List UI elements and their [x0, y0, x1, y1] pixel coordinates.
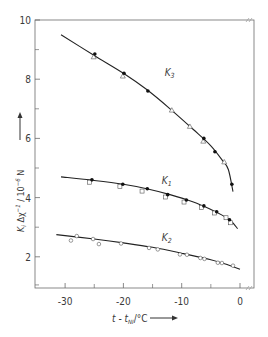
open-circle-marker [156, 248, 160, 252]
filled-circle-marker [121, 182, 125, 186]
series-k1 [61, 177, 238, 229]
open-circle-marker [220, 261, 224, 265]
fit-curve-k2 [56, 235, 240, 270]
y-axis-arrow-head [18, 112, 23, 118]
filled-circle-marker [202, 137, 206, 141]
filled-circle-marker [202, 204, 206, 208]
y-axis-label: Ki Δχ−1 / 10−6 N [14, 170, 27, 232]
square-marker [224, 216, 228, 220]
series-layer [56, 35, 240, 269]
square-marker [140, 189, 144, 193]
fit-curve-k3 [61, 35, 233, 192]
x-axis-label: t - tNI/°C [112, 313, 147, 325]
filled-circle-marker [166, 193, 170, 197]
y-tick-label: 6 [25, 133, 31, 144]
filled-circle-marker [213, 150, 217, 154]
x-tick-label: -10 [174, 296, 189, 307]
open-circle-marker [91, 237, 95, 241]
y-tick-label: 10 [20, 15, 32, 26]
chart-container: -30-20-100246810t - tNI/°CKi Δχ−1 / 10−6… [0, 0, 268, 337]
open-circle-marker [97, 242, 101, 246]
x-axis-arrow-head [172, 316, 178, 321]
elastic-constants-chart: -30-20-100246810t - tNI/°CKi Δχ−1 / 10−6… [0, 0, 268, 337]
y-tick-label: 2 [25, 252, 31, 263]
filled-circle-marker [146, 187, 150, 191]
x-tick-label: 0 [237, 296, 243, 307]
open-circle-marker [199, 256, 203, 260]
filled-circle-marker [185, 198, 189, 202]
annotations: K3K1K2 [162, 67, 175, 244]
open-circle-marker [203, 257, 207, 261]
y-tick-label: 8 [25, 74, 31, 85]
open-circle-marker [75, 234, 79, 238]
open-circle-marker [119, 242, 123, 246]
filled-circle-marker [228, 218, 232, 222]
x-tick-label: -30 [58, 296, 73, 307]
series-label-k3: K3 [165, 67, 175, 80]
series-label-k2: K2 [162, 232, 172, 245]
series-k2 [56, 234, 240, 269]
open-circle-marker [231, 264, 235, 268]
filled-circle-marker [215, 210, 219, 214]
series-label-k1: K1 [162, 175, 172, 188]
open-circle-marker [178, 253, 182, 257]
filled-circle-marker [122, 71, 126, 75]
series-k3 [61, 35, 234, 192]
open-circle-marker [147, 246, 151, 250]
x-tick-label: -20 [116, 296, 131, 307]
axes: -30-20-100246810t - tNI/°CKi Δχ−1 / 10−6… [14, 15, 254, 325]
filled-circle-marker [230, 182, 234, 186]
filled-circle-marker [90, 178, 94, 182]
open-circle-marker [216, 261, 220, 265]
open-circle-marker [69, 239, 73, 243]
fit-curve-k1 [61, 177, 238, 229]
open-circle-marker [185, 253, 189, 257]
y-tick-label: 4 [25, 193, 31, 204]
plot-frame [35, 20, 254, 288]
filled-circle-marker [93, 52, 97, 56]
filled-circle-marker [146, 89, 150, 93]
